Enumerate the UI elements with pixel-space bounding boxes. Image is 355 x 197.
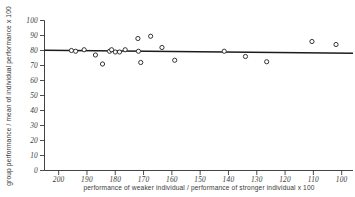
data-point [82,48,86,52]
data-point [160,45,164,49]
data-point [136,36,140,40]
y-tick-label: 40 [30,106,38,115]
x-tick-label: 170 [138,175,150,184]
x-tick-label: 190 [81,175,93,184]
y-axis-title: group performance / mean of individual p… [5,6,13,186]
data-points-group [69,34,338,66]
y-tick-label: 50 [30,91,38,100]
y-tick-label: 100 [26,16,38,25]
x-tick-label: 140 [223,175,235,184]
x-tick-label: 180 [109,175,121,184]
data-point [74,49,78,53]
x-axis-tick-labels: 200190180170160150140130120110100 [53,175,348,184]
chart-canvas: 0102030405060708090100 20019018017016015… [0,0,355,197]
y-axis-ticks [40,21,45,171]
x-tick-label: 120 [279,175,291,184]
data-point [136,49,140,53]
y-tick-label: 10 [30,151,38,160]
data-point [310,39,314,43]
x-tick-label: 110 [308,175,319,184]
y-tick-label: 60 [30,76,38,85]
x-axis-title: performance of weaker individual / perfo… [83,184,314,192]
data-point [173,58,177,62]
y-tick-label: 70 [30,61,38,70]
y-tick-label: 20 [30,136,38,145]
y-tick-label: 0 [34,166,38,175]
data-point [265,60,269,64]
regression-trend-line [45,50,354,53]
y-tick-label: 30 [29,121,38,130]
y-axis-tick-labels: 0102030405060708090100 [26,16,38,175]
data-point [334,42,338,46]
x-tick-label: 100 [336,175,348,184]
data-point [69,48,73,52]
y-tick-label: 90 [30,31,38,40]
data-point [100,62,104,66]
data-point [123,48,127,52]
data-point [139,60,143,64]
x-tick-label: 200 [53,175,65,184]
scatter-plot-figure: 0102030405060708090100 20019018017016015… [0,0,355,197]
data-point [222,49,226,53]
data-point [243,54,247,58]
data-point [149,34,153,38]
x-tick-label: 150 [194,175,206,184]
x-tick-label: 130 [251,175,263,184]
data-point [93,53,97,57]
data-point [113,50,117,54]
data-point [117,50,121,54]
x-tick-label: 160 [166,175,178,184]
y-tick-label: 80 [30,46,38,55]
